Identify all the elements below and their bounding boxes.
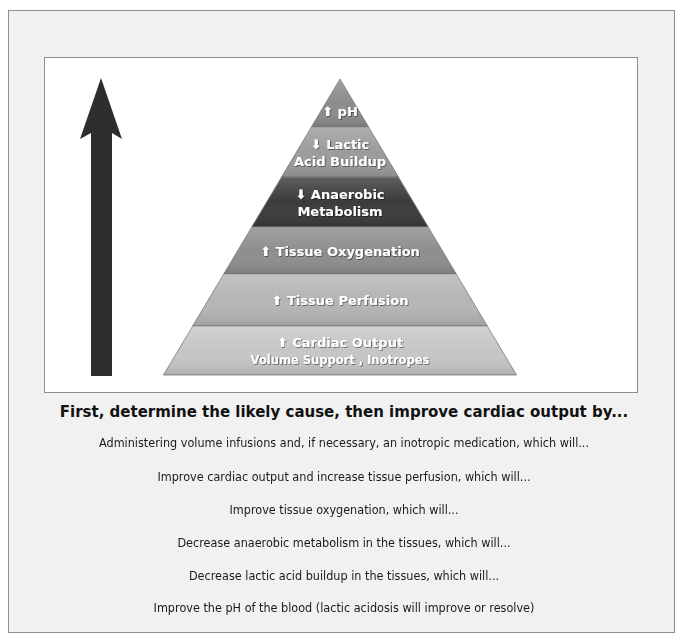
large-up-arrow-icon: [80, 78, 122, 376]
step-2: Improve cardiac output and increase tiss…: [34, 469, 653, 484]
tier-label: ⬆ Tissue Perfusion: [272, 293, 409, 308]
pyramid-tier-2: ⬇ LacticAcid Buildup: [282, 127, 399, 177]
tier-label: Metabolism: [297, 204, 382, 219]
tier-label: Acid Buildup: [294, 154, 386, 169]
step-4: Decrease anaerobic metabolism in the tis…: [34, 535, 653, 550]
tier-label: ⬆ Tissue Oxygenation: [260, 244, 420, 259]
pyramid-tier-6: ⬆ Cardiac OutputVolume Support , Inotrop…: [164, 326, 517, 375]
tier-label: ⬇ Lactic: [311, 137, 370, 152]
pyramid-tier-1: ⬆ pH: [311, 79, 368, 127]
tier-label: ⬇ Anaerobic: [295, 187, 384, 202]
caption-heading: First, determine the likely cause, then …: [0, 403, 688, 421]
pyramid-tier-3: ⬇ AnaerobicMetabolism: [252, 177, 429, 227]
step-5: Decrease lactic acid buildup in the tiss…: [34, 568, 653, 583]
tier-label: Volume Support , Inotropes: [251, 353, 430, 367]
pyramid-tier-5: ⬆ Tissue Perfusion: [193, 274, 488, 326]
tier-label: ⬆ pH: [322, 104, 358, 119]
step-6: Improve the pH of the blood (lactic acid…: [34, 600, 653, 615]
step-3: Improve tissue oxygenation, which will..…: [34, 502, 653, 517]
step-1: Administering volume infusions and, if n…: [34, 435, 653, 450]
pyramid-tier-4: ⬆ Tissue Oxygenation: [224, 227, 457, 274]
tier-label: ⬆ Cardiac Output: [277, 335, 403, 350]
